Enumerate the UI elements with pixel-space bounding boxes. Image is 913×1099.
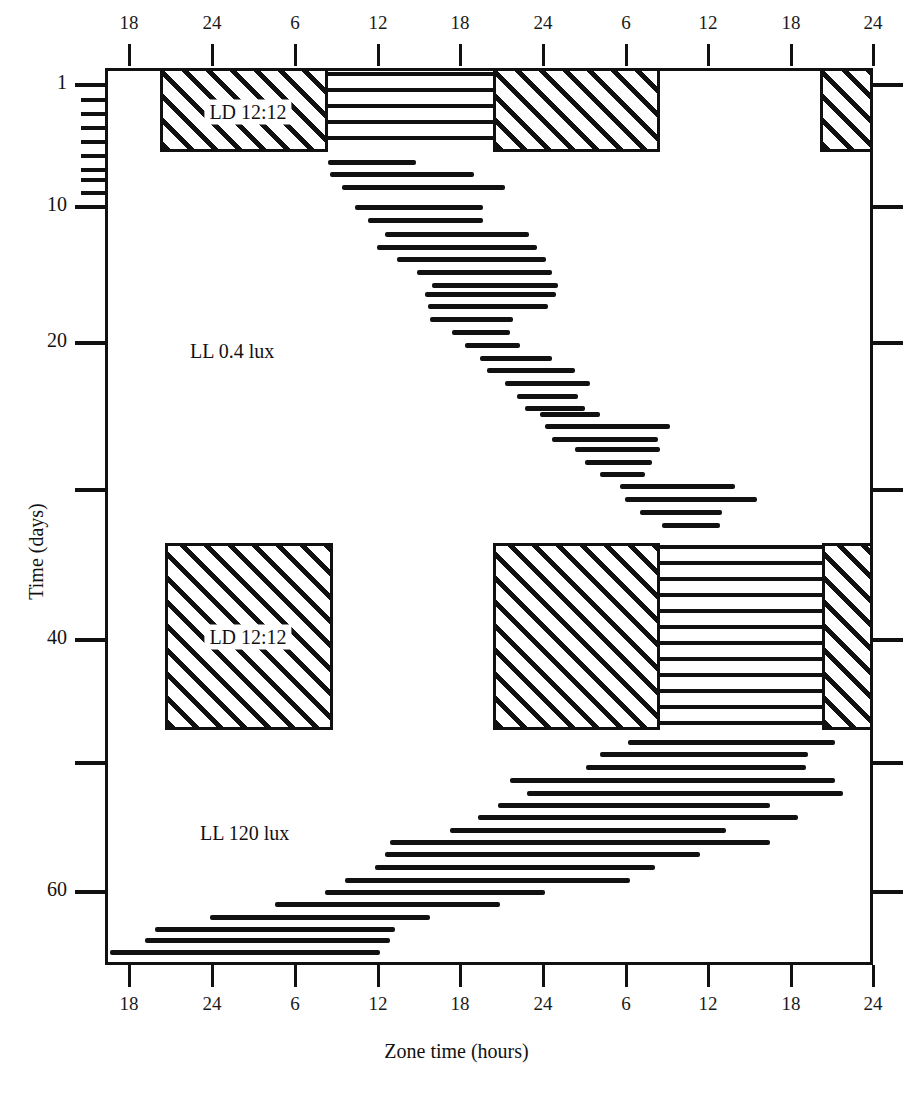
activity-bar-day-49 [586, 765, 806, 770]
activity-bar-day-16 [432, 283, 558, 288]
x-tick-label-bottom-0: 18 [120, 993, 139, 1015]
x-tick-mark-top-5 [542, 44, 545, 66]
y-tick-mark-3 [81, 126, 105, 130]
x-tick-mark-top-8 [790, 44, 793, 66]
y-tick-label-60: 60 [47, 878, 67, 901]
activity-bar-day-15 [417, 270, 552, 275]
activity-bar-day-27 [540, 412, 600, 417]
region-label-ll-120-lux: LL 120 lux [200, 822, 289, 845]
y-tick-mark-5 [81, 154, 105, 158]
y-tick-label-20: 20 [47, 329, 67, 352]
x-tick-label-top-3: 12 [369, 12, 388, 34]
x-tick-label-bottom-4: 18 [451, 993, 470, 1015]
activity-bar-day-34 [625, 497, 757, 502]
activity-bar-day-63 [145, 938, 390, 943]
y-tick-mark-2 [81, 112, 105, 116]
x-axis-title: Zone time (hours) [0, 1040, 913, 1063]
activity-bar-day-47 [628, 740, 835, 745]
y-tick-mark-right-1 [873, 205, 903, 209]
activity-bar-day-30 [575, 447, 660, 452]
activity-bar-day-58 [345, 878, 630, 883]
x-tick-mark-bottom-2 [294, 965, 297, 987]
activity-bar-day-32 [600, 472, 645, 477]
ld-label-1: LD 12:12 [204, 625, 291, 650]
x-tick-mark-bottom-6 [625, 965, 628, 987]
activity-bar-day-20 [452, 330, 510, 335]
activity-bar-day-22 [480, 356, 552, 361]
x-tick-label-top-4: 18 [451, 12, 470, 34]
y-tick-mark-14 [75, 890, 105, 894]
activity-bar-day-23 [487, 368, 575, 373]
x-tick-label-bottom-3: 12 [369, 993, 388, 1015]
region-label-ll-04-lux: LL 0.4 lux [190, 340, 274, 363]
y-axis-title: Time (days) [25, 472, 48, 632]
activity-bar-day-29 [552, 437, 658, 442]
activity-bar-day-36 [662, 523, 720, 528]
x-tick-mark-top-4 [459, 44, 462, 66]
x-tick-mark-bottom-9 [872, 965, 875, 987]
x-tick-label-bottom-2: 6 [290, 993, 300, 1015]
x-tick-label-bottom-8: 18 [782, 993, 801, 1015]
x-tick-label-top-7: 12 [699, 12, 718, 34]
y-tick-mark-right-0 [873, 83, 903, 87]
activity-bar-day-9 [342, 185, 505, 190]
x-tick-mark-top-7 [707, 44, 710, 66]
activity-bar-day-54 [450, 828, 726, 833]
activity-bar-day-48 [600, 752, 808, 757]
x-tick-mark-bottom-4 [459, 965, 462, 987]
activity-bar-day-64 [110, 950, 380, 955]
y-tick-label-40: 40 [47, 626, 67, 649]
activity-bar-day-51 [527, 791, 843, 796]
x-tick-mark-top-0 [128, 44, 131, 66]
y-tick-mark-6 [81, 168, 105, 172]
activity-bar-day-8 [330, 172, 474, 177]
x-tick-label-top-1: 24 [203, 12, 222, 34]
y-tick-mark-1 [81, 98, 105, 102]
activity-bar-day-7 [328, 160, 416, 165]
x-tick-label-bottom-7: 12 [699, 993, 718, 1015]
y-tick-mark-right-4 [873, 638, 903, 642]
activity-bar-day-28 [545, 424, 670, 429]
x-tick-label-top-9: 24 [864, 12, 883, 34]
x-tick-label-top-5: 24 [534, 12, 553, 34]
x-tick-mark-bottom-5 [542, 965, 545, 987]
activity-bar-day-21 [465, 343, 520, 348]
x-tick-label-bottom-5: 24 [534, 993, 553, 1015]
x-tick-label-bottom-6: 6 [621, 993, 631, 1015]
dark-bot-mid [493, 543, 660, 730]
dark-top-mid [493, 68, 660, 152]
activity-bar-day-33 [620, 484, 735, 489]
activity-bar-day-55 [390, 840, 770, 845]
dark-bot-right [822, 543, 873, 730]
y-tick-mark-7 [81, 178, 105, 182]
x-tick-mark-bottom-1 [211, 965, 214, 987]
activity-bar-day-53 [478, 815, 798, 820]
activity-bar-day-17 [425, 292, 556, 297]
activity-bar-day-10 [355, 205, 483, 210]
x-tick-label-top-8: 18 [782, 12, 801, 34]
y-tick-mark-10 [75, 341, 105, 345]
y-tick-mark-0 [75, 83, 105, 87]
x-tick-label-top-0: 18 [120, 12, 139, 34]
activity-bar-day-25 [517, 394, 578, 399]
activity-bar-day-31 [585, 460, 652, 465]
activity-bar-day-56 [385, 852, 700, 857]
x-tick-mark-bottom-3 [377, 965, 380, 987]
x-tick-mark-top-6 [625, 44, 628, 66]
x-tick-label-top-6: 6 [621, 12, 631, 34]
entrained-activity-bottom [660, 545, 822, 730]
activity-bar-day-35 [640, 510, 722, 515]
y-tick-mark-13 [75, 761, 105, 765]
x-tick-mark-bottom-7 [707, 965, 710, 987]
x-tick-label-top-2: 6 [290, 12, 300, 34]
activity-bar-day-57 [375, 865, 655, 870]
x-tick-mark-bottom-8 [790, 965, 793, 987]
y-tick-mark-11 [75, 488, 105, 492]
y-tick-mark-right-3 [873, 488, 903, 492]
y-tick-mark-right-6 [873, 890, 903, 894]
y-tick-mark-9 [75, 205, 105, 209]
ld-label-0: LD 12:12 [204, 100, 291, 125]
activity-bar-day-13 [377, 245, 537, 250]
x-tick-mark-top-1 [211, 44, 214, 66]
x-tick-label-bottom-9: 24 [864, 993, 883, 1015]
